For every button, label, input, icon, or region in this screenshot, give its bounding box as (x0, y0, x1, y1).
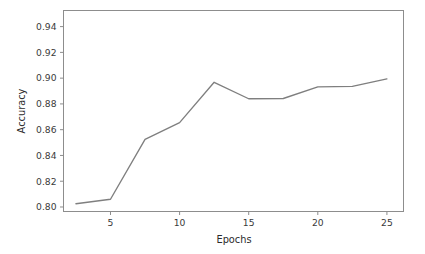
x-tick-label: 25 (381, 217, 393, 228)
y-tick-label: 0.80 (36, 201, 57, 212)
x-tick-label: 15 (243, 217, 255, 228)
y-tick-label: 0.82 (36, 176, 56, 187)
y-tick-label: 0.84 (36, 150, 57, 161)
x-tick-label: 5 (108, 217, 114, 228)
x-tick-label: 10 (174, 217, 186, 228)
x-tick-label: 20 (312, 217, 324, 228)
y-tick-label: 0.90 (36, 72, 57, 83)
line-chart: 0.800.820.840.860.880.900.920.94 5101520… (0, 0, 425, 254)
x-axis-label: Epochs (216, 234, 251, 245)
y-axis-label: Accuracy (16, 88, 27, 133)
chart-figure: 0.800.820.840.860.880.900.920.94 5101520… (0, 0, 425, 254)
y-tick-label: 0.92 (36, 47, 56, 58)
y-tick-label: 0.88 (36, 98, 57, 109)
y-tick-label: 0.94 (36, 21, 57, 32)
y-tick-label: 0.86 (36, 124, 57, 135)
